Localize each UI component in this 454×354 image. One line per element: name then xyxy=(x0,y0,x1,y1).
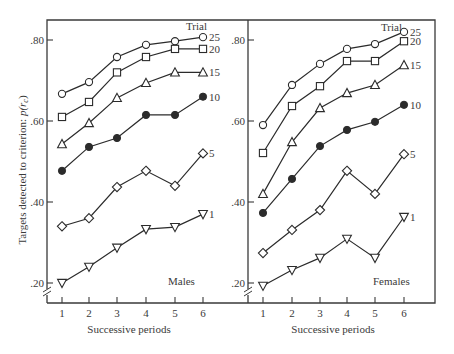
series-label: 20 xyxy=(209,43,221,55)
series-trial-15: 15 xyxy=(58,66,221,147)
y-axis-label: Targets detected to criterion: p(rc) xyxy=(16,95,30,245)
triangle-down-marker-icon xyxy=(259,282,268,290)
square-open-marker-icon xyxy=(371,57,378,64)
circle-filled-marker-icon xyxy=(171,111,178,118)
triangle-up-marker-icon xyxy=(371,80,380,88)
x-tick-label: 3 xyxy=(114,307,120,319)
series-label: 15 xyxy=(209,66,221,78)
legend-title-males: Trial xyxy=(186,20,207,32)
circle-filled-marker-icon xyxy=(288,175,295,182)
square-open-marker-icon xyxy=(400,38,407,45)
x-tick-label: 1 xyxy=(260,307,266,319)
panel-label-females: Females xyxy=(373,275,410,287)
circle-filled-marker-icon xyxy=(343,126,350,133)
y-tick-label: .60 xyxy=(231,115,245,127)
triangle-up-marker-icon xyxy=(400,61,409,69)
triangle-down-marker-icon xyxy=(58,279,67,287)
series-label: 15 xyxy=(410,59,422,71)
x-tick-label: 3 xyxy=(317,307,323,319)
series-label: 1 xyxy=(209,208,215,220)
circle-open-marker-icon xyxy=(171,38,178,45)
square-open-marker-icon xyxy=(85,98,92,105)
x-tick-label: 1 xyxy=(59,307,65,319)
square-open-marker-icon xyxy=(199,45,206,52)
triangle-down-marker-icon xyxy=(316,254,325,262)
circle-open-marker-icon xyxy=(199,34,206,41)
series-label: 5 xyxy=(209,147,215,159)
triangle-down-marker-icon xyxy=(343,235,352,243)
series-trial-25: 25 xyxy=(58,31,220,97)
y-tick-label: .20 xyxy=(30,277,44,289)
series-label: 5 xyxy=(410,148,416,160)
y-tick-label: .40 xyxy=(231,196,245,208)
triangle-down-marker-icon xyxy=(199,211,208,219)
line-chart: .20.40.60.80 .20.40.60.80 12345625201510… xyxy=(0,0,454,354)
diamond-open-marker-icon xyxy=(399,150,408,159)
y-tick-label: .80 xyxy=(30,34,44,46)
triangle-down-marker-icon xyxy=(288,266,297,274)
x-tick-label: 5 xyxy=(172,307,178,319)
triangle-down-marker-icon xyxy=(113,244,122,252)
circle-open-marker-icon xyxy=(142,41,149,48)
panel-label-males: Males xyxy=(168,275,195,287)
series-label: 10 xyxy=(209,91,221,103)
x-tick-label: 4 xyxy=(344,307,350,319)
x-axis-label-females: Successive periods xyxy=(291,323,374,335)
y-tick-label: .40 xyxy=(30,196,44,208)
circle-open-marker-icon xyxy=(343,45,350,52)
circle-open-marker-icon xyxy=(259,121,266,128)
y-axis-females: .20.40.60.80 xyxy=(231,34,254,296)
circle-open-marker-icon xyxy=(58,90,65,97)
square-open-marker-icon xyxy=(171,45,178,52)
circle-filled-marker-icon xyxy=(58,167,65,174)
triangle-up-marker-icon xyxy=(113,93,122,101)
square-open-marker-icon xyxy=(113,69,120,76)
series-trial-20: 20 xyxy=(58,43,220,121)
panel-males: 1234562520151051 xyxy=(57,31,220,319)
circle-open-marker-icon xyxy=(85,79,92,86)
x-tick-label: 6 xyxy=(401,307,407,319)
square-open-marker-icon xyxy=(343,57,350,64)
square-open-marker-icon xyxy=(58,113,65,120)
square-open-marker-icon xyxy=(259,149,266,156)
series-label: 20 xyxy=(410,35,422,47)
circle-filled-marker-icon xyxy=(85,143,92,150)
series-trial-25: 25 xyxy=(259,26,421,129)
triangle-down-marker-icon xyxy=(371,254,380,262)
circle-filled-marker-icon xyxy=(259,209,266,216)
circle-open-marker-icon xyxy=(371,40,378,47)
square-open-marker-icon xyxy=(288,102,295,109)
circle-filled-marker-icon xyxy=(142,111,149,118)
series-trial-5: 5 xyxy=(258,148,416,257)
y-tick-label: .20 xyxy=(231,277,245,289)
diamond-open-marker-icon xyxy=(57,222,66,231)
series-trial-15: 15 xyxy=(259,59,422,197)
triangle-up-marker-icon xyxy=(58,139,67,147)
y-tick-label: .80 xyxy=(231,34,245,46)
circle-open-marker-icon xyxy=(316,60,323,67)
circle-open-marker-icon xyxy=(288,81,295,88)
y-tick-label: .60 xyxy=(30,115,44,127)
legend-title-females: Trial xyxy=(381,21,402,33)
x-axis-label-males: Successive periods xyxy=(87,323,170,335)
triangle-up-marker-icon xyxy=(259,189,268,197)
triangle-up-marker-icon xyxy=(316,103,325,111)
series-label: 10 xyxy=(410,99,422,111)
x-tick-label: 4 xyxy=(143,307,149,319)
y-axis-males: .20.40.60.80 xyxy=(30,34,53,296)
triangle-down-marker-icon xyxy=(85,263,94,271)
series-label: 1 xyxy=(410,211,416,223)
triangle-down-marker-icon xyxy=(142,226,151,234)
x-tick-label: 2 xyxy=(289,307,295,319)
circle-open-marker-icon xyxy=(113,53,120,60)
square-open-marker-icon xyxy=(316,83,323,90)
circle-filled-marker-icon xyxy=(199,93,206,100)
series-trial-5: 5 xyxy=(57,147,215,231)
series-label: 25 xyxy=(209,31,221,43)
x-tick-label: 5 xyxy=(372,307,378,319)
circle-filled-marker-icon xyxy=(400,101,407,108)
circle-filled-marker-icon xyxy=(316,143,323,150)
square-open-marker-icon xyxy=(142,53,149,60)
x-tick-label: 2 xyxy=(86,307,92,319)
circle-filled-marker-icon xyxy=(113,134,120,141)
